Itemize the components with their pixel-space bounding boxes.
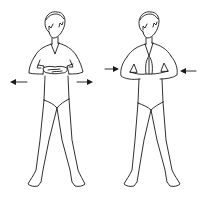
head [45,12,65,44]
legs [28,99,85,186]
legs [124,102,180,186]
torso [127,43,171,110]
head [139,12,159,44]
arrow-right-icon [105,66,119,72]
arrow-right-icon [77,79,93,85]
figure-left: Pull hands apart [10,12,93,187]
exercise-illustration: Pull hands apart [0,0,207,198]
arrow-left-icon [180,68,196,74]
torso [35,43,76,108]
arrow-left-icon [10,79,27,85]
arms [29,55,83,74]
figure-right: Press palms together [105,12,196,187]
arms [121,56,178,79]
